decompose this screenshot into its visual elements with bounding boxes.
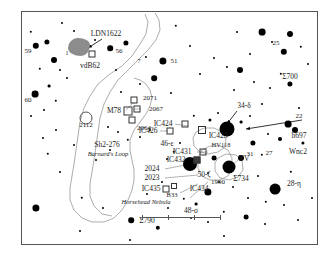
label-ic432: IC432 [167, 156, 186, 164]
star-a10 [66, 77, 68, 79]
star-c3 [213, 57, 215, 59]
label-ic423: IC423 [209, 132, 228, 140]
star-g4 [95, 159, 97, 161]
star-c10 [307, 63, 309, 65]
star-d1 [208, 118, 211, 121]
star-25b [287, 31, 293, 37]
star-f11 [47, 153, 49, 155]
star-f14 [42, 137, 44, 139]
star-f13 [55, 129, 57, 131]
label-vdb62: vdB62 [80, 62, 100, 70]
label-hv118: HV118 [212, 142, 231, 149]
star-b10 [117, 131, 119, 133]
star-c4 [226, 66, 228, 68]
star-sigma-ori [195, 203, 198, 206]
star-e12 [247, 197, 249, 199]
label-48-sigma: 48-σ [184, 207, 198, 215]
star-f6 [156, 226, 160, 230]
star-wnc2 [301, 141, 304, 144]
star-e11 [283, 204, 285, 206]
star-22a [285, 121, 292, 128]
label-25: 25 [273, 40, 280, 47]
marker-m78 [124, 107, 133, 116]
star-b13 [127, 139, 129, 141]
star-e13 [232, 186, 234, 188]
label-ic434: IC434 [190, 185, 209, 193]
label-2112: 2112 [79, 122, 93, 129]
star-h697 [278, 137, 282, 141]
label-59: 59 [25, 48, 32, 55]
marker-ic424 [182, 121, 189, 128]
marker-ic432 [194, 157, 201, 164]
star-d3 [217, 112, 219, 114]
star-g8 [79, 230, 81, 232]
star-c1 [175, 25, 177, 27]
scale-bar [142, 217, 220, 223]
star-d4 [240, 121, 243, 124]
label-1: 1 [66, 50, 69, 56]
label-ic426: IC426 [139, 127, 158, 135]
star-f8 [81, 197, 83, 199]
label-56: 56 [116, 48, 123, 55]
star-a2 [30, 31, 32, 33]
star-c11 [237, 67, 243, 73]
marker-ic423 [198, 126, 206, 134]
star-a5 [48, 85, 51, 88]
label-wnc2: Wnc2 [289, 148, 307, 156]
star-g2 [146, 193, 148, 195]
label-ic435: IC435 [142, 185, 161, 193]
star-c12 [253, 81, 255, 83]
star-f4 [264, 223, 266, 225]
marker-vdb62 [89, 51, 96, 58]
marker-ngc2064 [129, 117, 136, 124]
star-c15 [269, 87, 271, 89]
star-f2 [244, 215, 249, 220]
star-e9 [290, 171, 292, 173]
scale-bar-tick-1 [168, 215, 169, 220]
star-c5 [199, 73, 201, 75]
label-46-eps: 46-ε [160, 140, 173, 148]
star-e7 [183, 198, 185, 200]
star-c16 [287, 81, 292, 86]
star-b9 [107, 126, 109, 128]
star-b2 [94, 39, 96, 41]
label-sh2-276: Sh2-276 [94, 141, 119, 149]
label-28-eta: 28-η [287, 180, 301, 188]
star-a11 [73, 30, 75, 32]
label-7: 7 [138, 58, 141, 64]
star-b3 [115, 69, 117, 71]
star-a8 [30, 115, 32, 117]
label-2024: 2024 [145, 165, 160, 173]
star-d6 [267, 133, 269, 135]
scale-bar-tick-3 [220, 215, 221, 220]
scale-bar-tick-0 [142, 215, 143, 220]
label-51: 51 [171, 58, 178, 65]
star-e4 [212, 156, 217, 161]
star-f10 [59, 171, 61, 173]
label-2071: 2071 [143, 95, 157, 102]
star-c18 [298, 107, 300, 109]
star-b6 [139, 83, 141, 85]
star-b5 [151, 75, 157, 81]
star-c6 [236, 31, 238, 33]
label-50-zeta: 50-ζ [197, 171, 210, 179]
star-b7 [170, 92, 172, 94]
star-c9 [249, 53, 251, 55]
star-d7 [250, 140, 255, 145]
star-chart: LDN1622vdB6259601567512112M7820712067206… [0, 0, 333, 267]
sky-frame: LDN1622vdB6259601567512112M7820712067206… [21, 11, 318, 245]
marker-ic426 [167, 128, 174, 135]
star-f12 [73, 144, 75, 146]
star-a9 [59, 69, 61, 71]
star-e8 [257, 175, 259, 177]
label-60: 60 [25, 97, 32, 104]
ngc2023-leader [165, 175, 198, 178]
star-d5 [249, 115, 251, 117]
star-g10 [223, 235, 225, 237]
marker-ic431 [200, 149, 207, 156]
star-g1 [167, 207, 169, 209]
star-g6 [297, 219, 299, 221]
star-27 [261, 154, 263, 156]
ldn1622 [68, 38, 90, 56]
label-horsehead: Horsehead Nebula [122, 199, 171, 206]
